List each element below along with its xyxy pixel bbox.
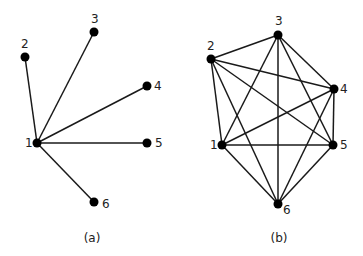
node-a-1 [33, 139, 42, 148]
edge-a-1-6 [37, 143, 94, 202]
figure-caption: (b) [271, 231, 288, 245]
node-a-3 [90, 28, 99, 37]
edge-a-1-3 [37, 32, 94, 143]
node-b-3 [274, 31, 283, 40]
edge-b-3-5 [278, 35, 333, 145]
node-b-6 [274, 200, 283, 209]
node-a-6 [90, 198, 99, 207]
edge-b-2-4 [211, 59, 334, 89]
node-label: 3 [275, 14, 283, 28]
node-a-4 [143, 82, 152, 91]
edge-a-1-4 [37, 86, 147, 143]
node-label: 1 [25, 136, 33, 150]
node-label: 2 [21, 37, 29, 51]
node-label: 5 [155, 136, 163, 150]
edge-b-1-6 [222, 145, 278, 204]
edge-b-5-6 [278, 145, 333, 204]
edge-b-2-6 [211, 59, 278, 204]
node-label: 2 [207, 39, 215, 53]
node-b-4 [330, 85, 339, 94]
node-label: 4 [154, 79, 162, 93]
edge-b-3-4 [278, 35, 334, 89]
edge-a-1-2 [25, 57, 37, 143]
edge-b-4-5 [333, 89, 334, 145]
node-label: 6 [102, 197, 110, 211]
node-b-5 [329, 141, 338, 150]
node-b-2 [207, 55, 216, 64]
node-a-2 [21, 53, 30, 62]
node-label: 6 [283, 203, 291, 217]
graph-a-star: 123456(a) [21, 12, 163, 245]
figure-caption: (a) [84, 231, 101, 245]
node-b-1 [218, 141, 227, 150]
node-label: 5 [340, 138, 348, 152]
node-label: 4 [340, 82, 348, 96]
node-label: 1 [210, 138, 218, 152]
graph-figure: 123456(a) 123456(b) [0, 0, 363, 256]
node-label: 3 [91, 12, 99, 26]
edge-b-4-6 [278, 89, 334, 204]
node-a-5 [143, 139, 152, 148]
graph-b-complete: 123456(b) [207, 14, 348, 245]
